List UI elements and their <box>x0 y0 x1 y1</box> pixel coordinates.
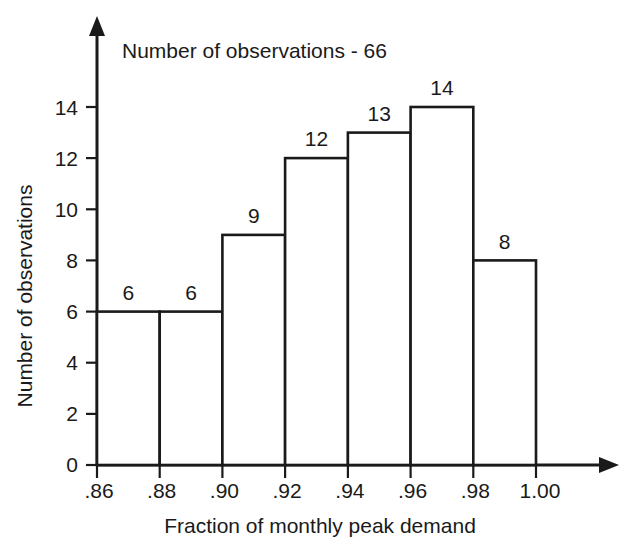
y-tick-label-10: 10 <box>55 198 78 221</box>
observations-count-annotation: Number of observations - 66 <box>122 39 387 62</box>
histogram-chart: 0 2 4 6 8 10 12 14 .86 .88 .90 .92 .94 <box>0 0 635 550</box>
y-tick-label-8: 8 <box>66 249 78 272</box>
bar-090-092[interactable] <box>222 235 285 465</box>
y-tick-label-2: 2 <box>66 402 78 425</box>
x-axis-title: Fraction of monthly peak demand <box>164 514 476 537</box>
x-tick-label-090: .90 <box>210 479 239 502</box>
bar-value-label-5: 13 <box>368 102 391 125</box>
x-tick-label-098: .98 <box>461 479 490 502</box>
bar-092-094[interactable] <box>285 158 348 465</box>
y-tick-label-12: 12 <box>55 147 78 170</box>
bar-value-label-7: 8 <box>499 230 511 253</box>
x-tick-label-086: .86 <box>84 479 113 502</box>
x-tick-label-088: .88 <box>147 479 176 502</box>
bar-value-label-1: 6 <box>123 281 135 304</box>
bar-098-100[interactable] <box>473 260 536 465</box>
bar-094-096[interactable] <box>348 133 411 465</box>
bar-value-label-6: 14 <box>430 76 454 99</box>
x-tick-label-100: 1.00 <box>520 479 561 502</box>
y-tick-label-4: 4 <box>66 351 78 374</box>
bar-value-label-4: 12 <box>305 127 328 150</box>
x-tick-label-096: .96 <box>398 479 427 502</box>
x-tick-label-092: .92 <box>272 479 301 502</box>
chart-page: 0 2 4 6 8 10 12 14 .86 .88 .90 .92 .94 <box>0 0 635 550</box>
bar-value-label-3: 9 <box>248 204 260 227</box>
y-axis-title: Number of observations <box>13 185 36 408</box>
bar-value-label-2: 6 <box>185 281 197 304</box>
y-tick-label-14: 14 <box>55 96 79 119</box>
bar-088-090[interactable] <box>160 312 223 465</box>
y-tick-label-6: 6 <box>66 300 78 323</box>
bar-096-098[interactable] <box>411 107 474 465</box>
y-tick-label-0: 0 <box>66 453 78 476</box>
bar-086-088[interactable] <box>97 312 160 465</box>
x-tick-label-094: .94 <box>335 479 365 502</box>
